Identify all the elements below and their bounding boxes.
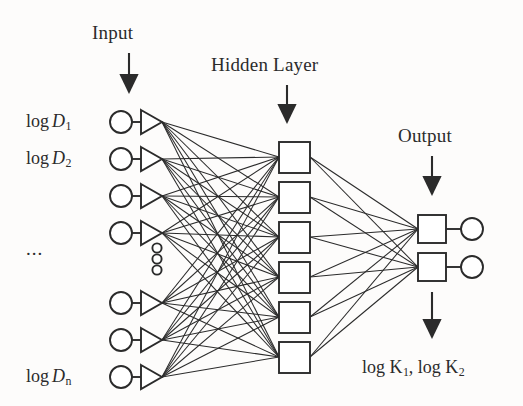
edges-input-to-hidden	[162, 122, 279, 377]
hidden-node	[279, 342, 310, 373]
input-label-d2-prefix: log	[26, 148, 49, 168]
input-label-d1: logD1	[26, 111, 71, 134]
input-label-dn: logDn	[26, 366, 71, 389]
input-node	[110, 147, 162, 171]
hidden-node	[279, 302, 310, 333]
input-label-dn-prefix: log	[26, 366, 49, 386]
output-term-1-prefix: log	[362, 357, 385, 377]
hidden-node	[279, 262, 310, 293]
output-node	[418, 215, 483, 243]
input-label-d1-variable: D	[49, 111, 65, 131]
output-term-2-variable: K	[445, 357, 458, 377]
input-label-dn-subscript: n	[65, 374, 71, 388]
output-terms-separator: ,	[409, 357, 418, 377]
output-terms-label: log K1, log K2	[362, 357, 465, 380]
output-term-1-variable: K	[390, 357, 403, 377]
output-term-2-subscript: 2	[458, 365, 464, 379]
input-section-label: Input	[92, 22, 133, 44]
input-node	[110, 221, 162, 245]
input-label-d2: logD2	[26, 148, 71, 171]
output-section-label: Output	[398, 125, 452, 147]
input-label-d1-subscript: 1	[65, 119, 71, 133]
input-node	[110, 110, 162, 134]
input-node	[110, 184, 162, 208]
input-label-d1-prefix: log	[26, 111, 49, 131]
input-label-ellipsis: ...	[26, 238, 43, 260]
input-label-d2-variable: D	[49, 148, 65, 168]
input-label-d2-subscript: 2	[65, 156, 71, 170]
output-term-2-prefix: log	[418, 357, 441, 377]
output-layer-nodes	[418, 215, 483, 281]
hidden-node	[279, 142, 310, 173]
input-vertical-dots-icon	[152, 243, 161, 274]
hidden-layer-section-label: Hidden Layer	[211, 54, 318, 76]
edges-hidden-to-output	[310, 157, 418, 357]
input-node	[110, 328, 162, 352]
input-label-dn-variable: D	[49, 366, 65, 386]
input-node	[110, 291, 162, 315]
hidden-node	[279, 182, 310, 213]
hidden-layer-nodes	[279, 142, 310, 373]
output-node	[418, 253, 483, 281]
hidden-node	[279, 222, 310, 253]
neural-network-diagram: Input Hidden Layer Output logD1 logD2 ..…	[0, 0, 523, 406]
input-node	[110, 365, 162, 389]
